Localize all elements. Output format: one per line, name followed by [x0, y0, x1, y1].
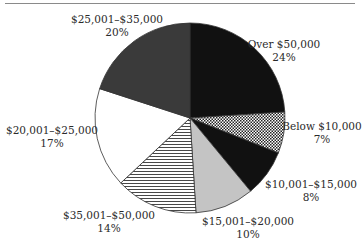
label-25001-35000: $25,001–$35,000 20% [71, 13, 163, 39]
slice-name: $10,001–$15,000 [265, 178, 357, 191]
label-15001-20000: $15,001–$20,000 10% [202, 215, 294, 241]
label-over-50000: Over $50,000 24% [248, 38, 321, 64]
label-35001-50000: $35,001–$50,000 14% [63, 209, 155, 235]
slice-percent: 7% [282, 133, 361, 146]
label-20001-25000: $20,001–$25,000 17% [6, 124, 98, 150]
label-below-10000: Below $10,000 7% [282, 120, 361, 146]
slice-percent: 14% [63, 222, 155, 235]
slice-name: Over $50,000 [248, 38, 321, 51]
label-10001-15000: $10,001–$15,000 8% [265, 178, 357, 204]
slice-name: $20,001–$25,000 [6, 124, 98, 137]
slice-name: $35,001–$50,000 [63, 209, 155, 222]
slice-percent: 20% [71, 26, 163, 39]
slice-name: Below $10,000 [282, 120, 361, 133]
slice-percent: 17% [6, 137, 98, 150]
slice-name: $25,001–$35,000 [71, 13, 163, 26]
slice-name: $15,001–$20,000 [202, 215, 294, 228]
slice-percent: 10% [202, 228, 294, 241]
slice-percent: 8% [265, 191, 357, 204]
slice-percent: 24% [248, 51, 321, 64]
